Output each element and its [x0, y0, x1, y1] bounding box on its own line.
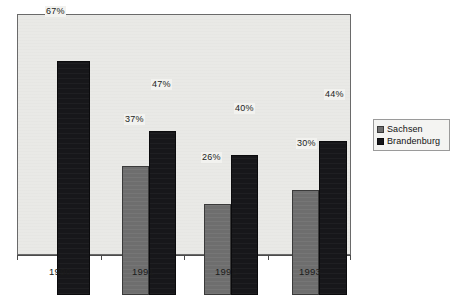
gray-swatch-icon — [377, 126, 384, 133]
value-label-1993-brandenburg: 44% — [324, 89, 345, 100]
legend: Sachsen Brandenburg — [373, 119, 450, 151]
bar-1993-sachsen[interactable] — [292, 190, 319, 295]
x-tick-label-1993: 1993 — [285, 266, 335, 278]
value-label-1990-brandenburg: 67% — [45, 6, 66, 17]
x-tick-label-1992: 1992 — [201, 266, 251, 278]
legend-item-sachsen[interactable]: Sachsen — [377, 123, 445, 135]
value-label-1992-sachsen: 26% — [201, 152, 222, 163]
bar-1990-brandenburg[interactable] — [57, 61, 90, 295]
bar-group-1991 — [101, 54, 184, 295]
legend-label-sachsen: Sachsen — [387, 124, 423, 135]
bar-chart: 67% 37% 47% 26% 40% 30% 44% 1990 1991 19… — [0, 0, 459, 295]
value-label-1993-sachsen: 30% — [296, 138, 317, 149]
black-swatch-icon — [377, 138, 384, 145]
bar-group-1992 — [184, 54, 268, 295]
bar-1992-sachsen[interactable] — [204, 204, 231, 295]
x-tick-label-1990: 1990 — [35, 266, 85, 278]
value-label-1991-brandenburg: 47% — [151, 79, 172, 90]
bar-group-1990 — [17, 54, 101, 295]
value-label-1991-sachsen: 37% — [124, 114, 145, 125]
value-label-1992-brandenburg: 40% — [234, 103, 255, 114]
legend-item-brandenburg[interactable]: Brandenburg — [377, 135, 445, 147]
x-tick-label-1991: 1991 — [118, 266, 168, 278]
legend-label-brandenburg: Brandenburg — [387, 136, 440, 147]
